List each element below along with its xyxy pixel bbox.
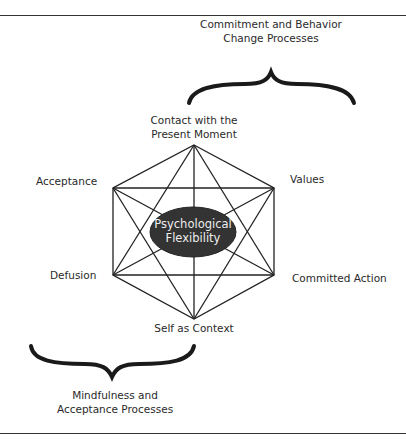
group-label-line-1: Mindfulness and: [40, 388, 190, 402]
node-label-self-as-context: Self as Context: [134, 321, 254, 335]
center-label-line-2: Flexibility: [148, 231, 238, 245]
group-label-line-2: Acceptance Processes: [40, 402, 190, 416]
node-label-committed-action: Committed Action: [292, 271, 387, 285]
top-brace-icon: [189, 72, 354, 103]
group-label-line-2: Change Processes: [190, 31, 352, 45]
node-label-acceptance: Acceptance: [36, 174, 97, 188]
node-label-values: Values: [290, 172, 324, 186]
group-label-mindfulness: Mindfulness and Acceptance Processes: [40, 388, 190, 416]
node-label-present-moment: Contact with the Present Moment: [134, 113, 254, 141]
center-label-line-1: Psychological: [148, 217, 238, 231]
node-label-line-1: Contact with the: [134, 113, 254, 127]
node-label-defusion: Defusion: [50, 268, 96, 282]
bottom-brace-icon: [31, 346, 194, 377]
group-label-commitment: Commitment and Behavior Change Processes: [190, 17, 352, 45]
center-label-psychological-flexibility: Psychological Flexibility: [148, 217, 238, 245]
node-label-line-2: Present Moment: [134, 127, 254, 141]
group-label-line-1: Commitment and Behavior: [190, 17, 352, 31]
